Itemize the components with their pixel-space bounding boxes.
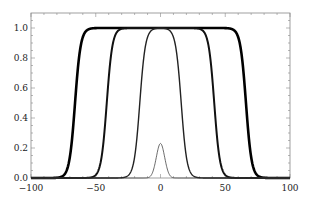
x-tick-label: 50: [220, 183, 232, 193]
y-tick-label: 0.6: [14, 83, 29, 93]
x-tick-label: 100: [281, 183, 298, 193]
y-tick-label: 0.2: [14, 143, 28, 153]
x-tick-label: −100: [19, 183, 44, 193]
y-tick-label: 0.8: [14, 53, 29, 63]
x-tick-label: 0: [158, 183, 164, 193]
line-chart: −100−500501000.00.20.40.60.81.0: [0, 0, 312, 198]
data-series: [31, 28, 290, 178]
series-plateau-wide: [31, 28, 290, 178]
y-tick-label: 0.4: [14, 113, 29, 123]
y-tick-label: 1.0: [14, 23, 29, 33]
x-tick-label: −50: [86, 183, 105, 193]
y-tick-label: 0.0: [14, 173, 29, 183]
tick-labels: −100−500501000.00.20.40.60.81.0: [14, 23, 299, 193]
